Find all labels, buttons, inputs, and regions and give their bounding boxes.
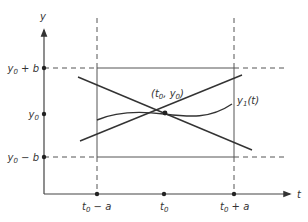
y-axis-label: y bbox=[39, 11, 47, 22]
y-tick-label-center: y0 bbox=[28, 109, 40, 122]
existence-uniqueness-diagram: y t y0 + b y0 y0 − b t0 − a t0 t0 + a (t… bbox=[0, 0, 308, 222]
t-tick-label-left: t0 − a bbox=[82, 201, 111, 214]
t-tick-label-center: t0 bbox=[160, 201, 169, 214]
curve-label: y1(t) bbox=[236, 95, 259, 108]
y-tick-label-upper: y0 + b bbox=[7, 63, 39, 76]
center-point-label: (t0, y0) bbox=[151, 88, 184, 101]
upper-slope-line bbox=[80, 75, 242, 141]
center-point bbox=[163, 111, 168, 116]
y-tick-label-lower: y0 − b bbox=[7, 152, 39, 165]
t-tick-label-right: t0 + a bbox=[220, 201, 249, 214]
t-axis-label: t bbox=[297, 189, 302, 200]
